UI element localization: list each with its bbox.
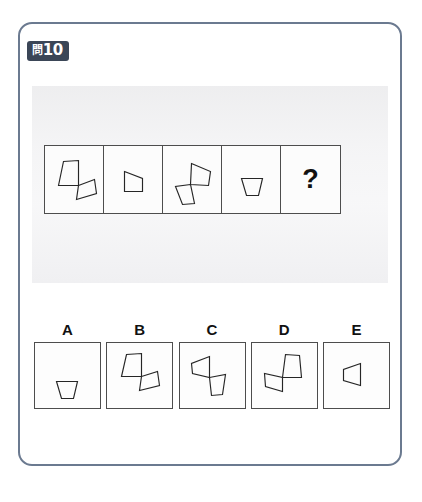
shape-right-trapezoid-icon (104, 146, 163, 213)
sequence-strip: ? (44, 145, 341, 214)
answer-options-row: A B C (34, 322, 390, 409)
option-a[interactable]: A (34, 322, 101, 409)
option-d-box[interactable] (251, 342, 318, 409)
shape-down-trapezoid-icon (35, 343, 100, 408)
option-e[interactable]: E (323, 322, 390, 409)
option-a-label: A (62, 322, 73, 337)
option-a-box[interactable] (34, 342, 101, 409)
option-e-label: E (351, 322, 361, 337)
shape-up-trapezoid-plus-left-trapezoid-icon (252, 343, 317, 408)
shape-down-trapezoid-icon (222, 146, 281, 213)
question-badge-kanji: 問 (32, 44, 43, 57)
question-number-badge: 問10 (27, 41, 69, 61)
option-b[interactable]: B (106, 322, 173, 409)
sequence-cell-3 (163, 146, 222, 213)
option-c-label: C (207, 322, 218, 337)
option-e-box[interactable] (323, 342, 390, 409)
option-d[interactable]: D (251, 322, 318, 409)
option-c-box[interactable] (179, 342, 246, 409)
option-c[interactable]: C (179, 322, 246, 409)
sequence-cell-2 (104, 146, 163, 213)
shape-right-trapezoid-plus-down-trapezoid-icon (163, 146, 222, 213)
option-d-label: D (279, 322, 290, 337)
shape-up-trapezoid-plus-right-trapezoid-icon (45, 146, 104, 213)
question-badge-number: 10 (43, 41, 63, 59)
sequence-cell-5-answer-slot[interactable]: ? (281, 146, 340, 213)
sequence-cell-1 (45, 146, 104, 213)
shape-up-trapezoid-plus-right-trapezoid-icon (107, 343, 172, 408)
shape-left-trapezoid-plus-down-trapezoid-icon (180, 343, 245, 408)
question-mark-label: ? (281, 146, 340, 213)
option-b-box[interactable] (106, 342, 173, 409)
question-card: 問10 ? (18, 22, 402, 466)
option-b-label: B (134, 322, 145, 337)
shape-left-trapezoid-icon (324, 343, 389, 408)
sequence-cell-4 (222, 146, 281, 213)
